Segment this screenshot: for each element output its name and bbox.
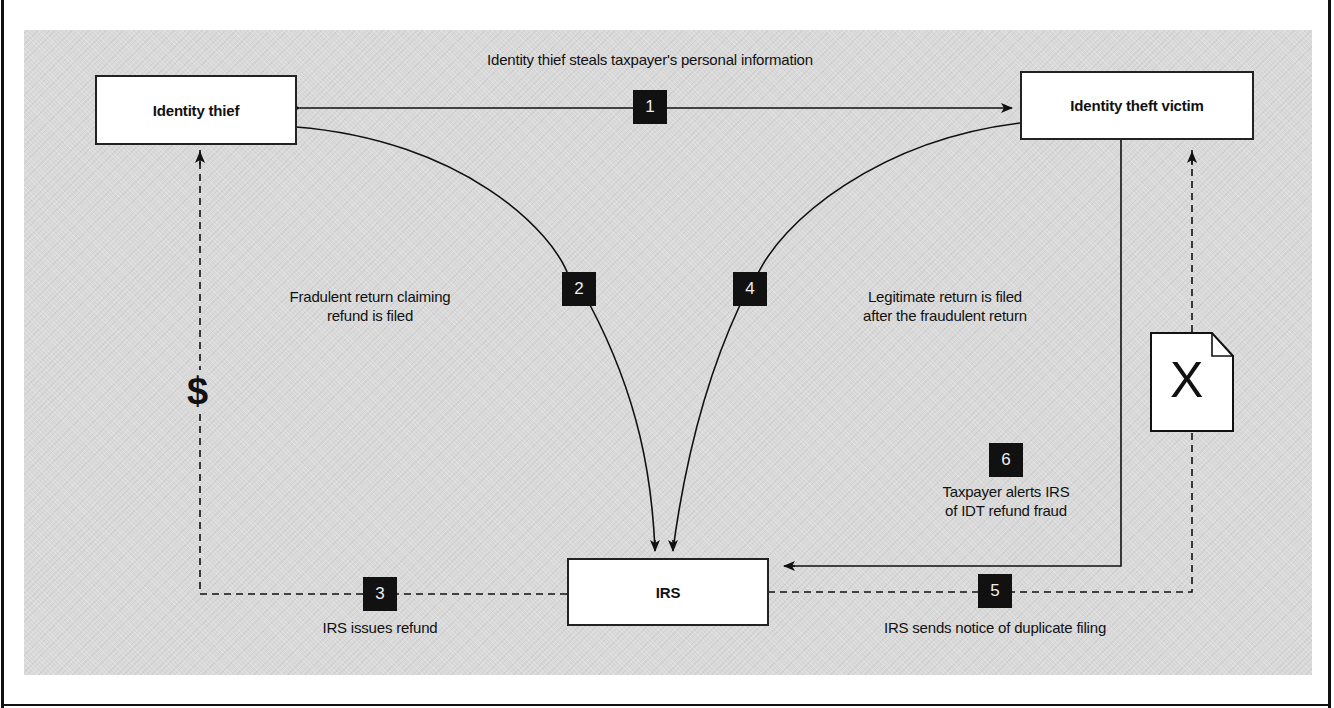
step-6-badge: 6	[989, 443, 1023, 477]
step-4-label-line-1: Legitimate return is filed	[840, 287, 1050, 306]
node-identity-thief-label: Identity thief	[153, 102, 239, 119]
node-irs: IRS	[567, 558, 769, 626]
step-1-label: Identity thief steals taxpayer's persona…	[440, 50, 860, 69]
document-x-mark: X	[1170, 355, 1203, 405]
step-3-badge: 3	[363, 577, 397, 611]
step-4-label-line-2: after the fraudulent return	[840, 306, 1050, 325]
node-identity-thief: Identity thief	[95, 75, 297, 145]
step-6-label-line-2: of IDT refund fraud	[930, 501, 1082, 520]
step-5-label: IRS sends notice of duplicate filing	[860, 618, 1130, 637]
arrow-step-3	[200, 150, 567, 594]
arrow-step-2	[296, 127, 655, 550]
arrow-step-5	[768, 150, 1192, 592]
step-2-badge: 2	[562, 272, 596, 306]
step-6-label: Taxpayer alerts IRS of IDT refund fraud	[930, 482, 1082, 520]
step-4-label: Legitimate return is filed after the fra…	[840, 287, 1050, 325]
step-4-badge: 4	[733, 272, 767, 306]
step-2-label-line-2: refund is filed	[270, 306, 470, 325]
node-victim-label: Identity theft victim	[1070, 97, 1203, 114]
node-identity-theft-victim: Identity theft victim	[1020, 71, 1254, 140]
step-2-label-line-1: Fradulent return claiming	[270, 287, 470, 306]
step-3-label: IRS issues refund	[290, 618, 470, 637]
step-2-label: Fradulent return claiming refund is file…	[270, 287, 470, 325]
step-1-badge: 1	[633, 90, 667, 124]
step-6-label-line-1: Taxpayer alerts IRS	[930, 482, 1082, 501]
dollar-icon: $	[187, 370, 208, 412]
step-5-badge: 5	[978, 574, 1012, 608]
node-irs-label: IRS	[656, 584, 680, 601]
